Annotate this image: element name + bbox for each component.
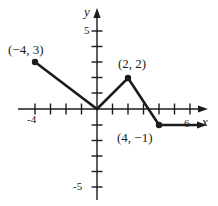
point-marker-2-2 [125,75,131,81]
point-label-neg4-3: (−4, 3) [8,43,44,56]
x-axis-label: x [202,115,208,128]
graph-screenshot: (−4, 3) (2, 2) (4, −1) -4 6 5 -5 y x [0,0,218,206]
x-tick-label-6: 6 [184,118,190,129]
coordinate-plane-graphic [0,0,218,206]
y-axis-arrowhead [93,8,100,18]
x-axis [18,104,208,115]
y-tick-label-5: 5 [84,25,90,36]
point-marker-4-neg1 [156,122,162,128]
x-axis-arrowhead [198,105,208,112]
y-axis-label: y [84,5,90,18]
x-tick-label-neg4: -4 [27,114,36,125]
point-label-4-neg1: (4, −1) [117,131,153,144]
point-label-2-2: (2, 2) [118,57,146,70]
point-marker-neg4-3 [32,59,38,65]
y-tick-label-neg5: -5 [73,181,82,192]
